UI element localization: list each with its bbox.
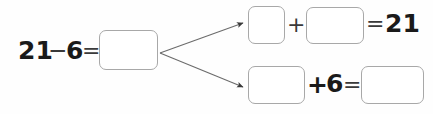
top-second-addend-box[interactable] <box>306 7 364 44</box>
left-subtrahend: 6 <box>66 38 83 63</box>
bottom-first-addend-box[interactable] <box>248 66 305 104</box>
bottom-answer-box[interactable] <box>361 66 424 104</box>
arrow-to-bottom-expression <box>160 53 243 87</box>
left-equals-sign-icon: = <box>82 40 100 62</box>
arrow-to-top-expression <box>160 23 243 53</box>
top-sum-value: 21 <box>385 11 420 36</box>
math-worksheet-diagram: 21 − 6 = + = 21 + 6 = <box>0 0 433 114</box>
bottom-addend: 6 <box>326 71 343 96</box>
bottom-equals-sign-icon: = <box>343 74 361 96</box>
top-equals-sign-icon: = <box>366 13 384 35</box>
top-first-addend-box[interactable] <box>248 6 285 44</box>
bottom-plus-sign-icon: + <box>307 72 328 97</box>
left-answer-box[interactable] <box>99 30 158 70</box>
minus-sign-icon: − <box>48 39 67 62</box>
top-plus-sign-icon: + <box>287 14 305 36</box>
